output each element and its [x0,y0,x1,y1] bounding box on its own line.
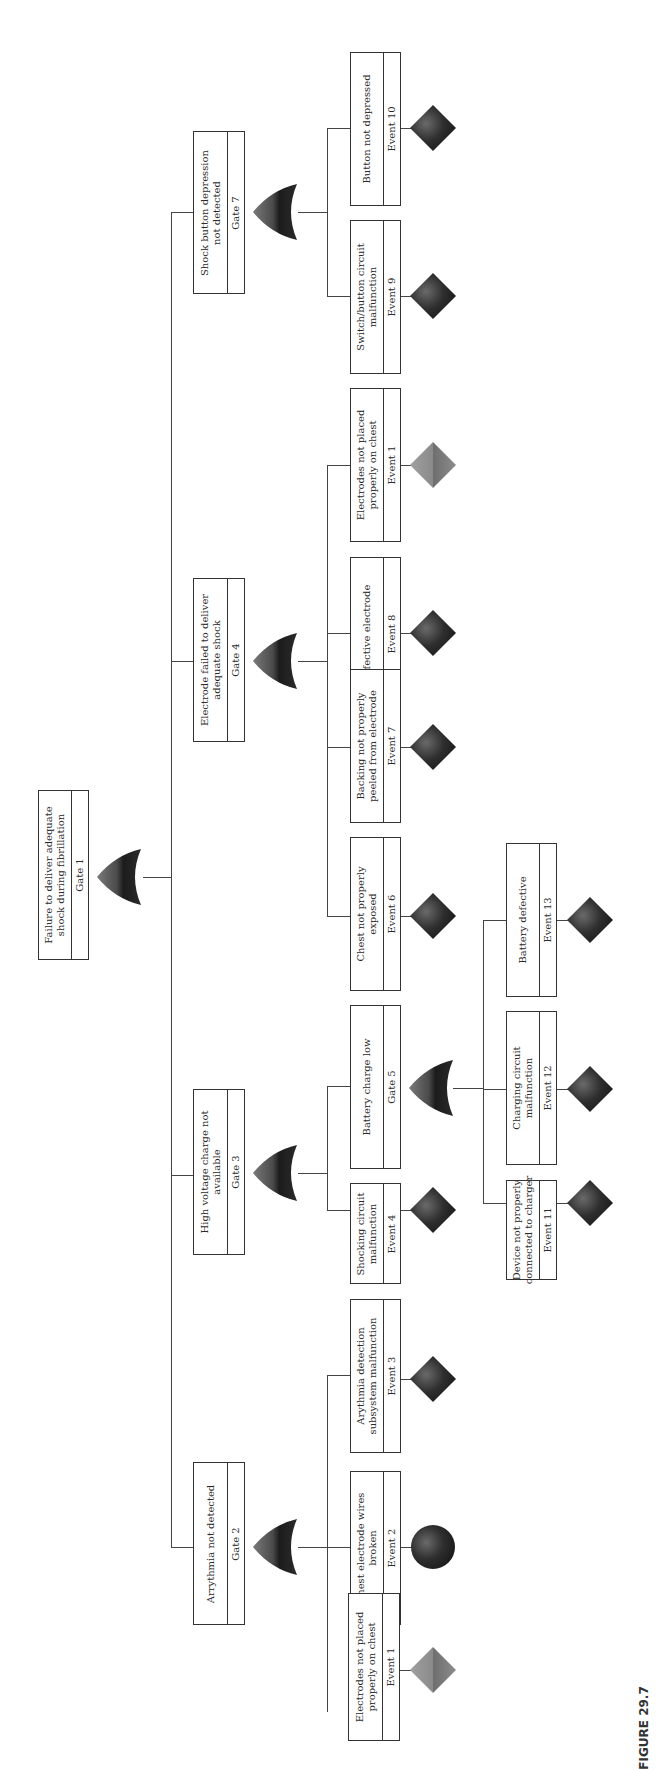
gate-7-line1: Shock button depression [199,149,211,275]
gate1-to-trunk [143,877,171,878]
gate-5-line1: Battery charge low [361,1039,373,1136]
trunk-to-gate4 [171,661,193,662]
gate3-bus [327,1086,328,1211]
gate-7-box: Shock button depressionnot detected Gate… [193,131,245,294]
event-3-box: Arythmia detectionsubsystem malfunction … [350,1299,401,1453]
or-gate-5-icon [407,1060,455,1116]
gate5-bus [483,920,484,1204]
event-13-id: Event 13 [542,897,554,942]
figure-caption-text: FIGURE 29.7 [637,1686,651,1769]
basic-event-12-diamond-icon [567,1066,613,1112]
to-event8 [327,633,350,634]
gate-1-box: Failure to deliver adequateshock during … [38,790,89,960]
or-gate-2-icon [251,1519,299,1575]
event-13-box: Battery defective Event 13 [506,843,557,997]
gate-4-line1: Electrode failed to deliver [199,594,211,726]
or-gate-4-icon [251,633,299,689]
or-gate-7-icon [251,184,299,240]
gate-3-line1: High voltage charge not [199,1110,211,1233]
event-9-line2: malfunction [367,243,379,350]
to-event9 [327,296,350,297]
gate3-out [298,1173,327,1174]
event-1a-line1: Electrodes not placed [354,1612,366,1723]
gate-4-id: Gate 4 [230,643,242,676]
gate4-out [298,661,327,662]
event-7-box: Backing not properlypeeled from electrod… [350,669,401,823]
event-2-line1: Chest electrode wires [355,1493,367,1604]
event-3-id: Event 3 [386,1357,398,1396]
event-1a-line2: properly on chest [366,1612,378,1723]
event-4-id: Event 4 [386,1214,398,1253]
basic-event-10-diamond-icon [410,105,456,151]
basic-event-2-circle-icon [410,1524,456,1570]
event-6-id: Event 6 [386,895,398,934]
gate4-bus [327,465,328,917]
gate7-out [298,212,327,213]
event-1b-line2: properly on chest [367,410,379,521]
basic-event-7-diamond-icon [410,724,456,770]
gate-7-id: Gate 7 [230,196,242,229]
event-13-line1: Battery defective [517,876,529,963]
event-1a-light-diamond-icon [410,1647,456,1693]
trunk-to-gate7 [171,212,193,213]
event-11-line1: Device not properly [511,1176,523,1285]
gate-4-line2: adequate shock [211,594,223,726]
to-event10 [327,128,350,129]
gate-1-line2: shock during fibrillation [55,806,67,943]
event-4-box: Shocking circuitmalfunction Event 4 [350,1183,401,1284]
event-12-box: Charging circuitmalfunction Event 12 [506,1011,557,1165]
to-event7 [327,747,350,748]
to-event11 [483,1203,506,1204]
event-6-box: Chest not properlyexposed Event 6 [350,837,401,991]
trunk-to-gate2 [171,1547,193,1548]
to-event2 [327,1547,350,1548]
event-1b-box: Electrodes not placedproperly on chest E… [350,388,401,542]
to-event12 [483,1089,506,1090]
basic-event-9-diamond-icon [410,273,456,319]
event-12-line2: malfunction [523,1046,535,1129]
event-7-line1: Backing not properly [355,690,367,802]
event-10-line1: Button not depressed [361,74,373,183]
gate-3-id: Gate 3 [230,1155,242,1188]
event-11-box: Device not properlyconnected to charger … [506,1180,557,1280]
gate7-bus [327,128,328,297]
gate-1-line1: Failure to deliver adequate [43,806,55,943]
to-gate5 [327,1086,350,1087]
gate-2-id: Gate 2 [230,1527,242,1560]
event-11-line2: connected to charger [523,1176,535,1285]
gate2-bus [327,1375,328,1712]
event-7-id: Event 7 [386,727,398,766]
event-12-line1: Charging circuit [511,1046,523,1129]
basic-event-6-diamond-icon [410,893,456,939]
basic-event-3-diamond-icon [410,1356,456,1402]
event-10-id: Event 10 [386,106,398,151]
to-event13 [483,920,506,921]
event-3-line1: Arythmia detection [355,1318,367,1435]
to-event3 [327,1375,350,1376]
basic-event-8-diamond-icon [410,610,456,656]
event-4-line2: malfunction [367,1192,379,1275]
gate-3-line2: available [211,1110,223,1233]
event-6-line1: Chest not properly [355,866,367,961]
event-2-id: Event 2 [386,1529,398,1568]
to-event4 [327,1210,350,1211]
figure-caption: FIGURE 29.7 [632,1690,656,1766]
to-event1b [327,465,350,466]
or-gate-3-icon [251,1145,299,1201]
event-9-line1: Switch/button circuit [355,243,367,350]
event-10-box: Button not depressed Event 10 [350,52,401,206]
event-9-id: Event 9 [386,278,398,317]
gate-3-box: High voltage charge notavailable Gate 3 [193,1089,245,1255]
event-12-id: Event 12 [542,1065,554,1110]
gate2-out [298,1547,327,1548]
gate-4-box: Electrode failed to deliveradequate shoc… [193,578,245,742]
event-1b-id: Event 1 [386,446,398,485]
basic-event-11-diamond-icon [567,1180,613,1226]
trunk-line [171,212,172,1548]
event-8-id: Event 8 [386,615,398,654]
event-4-line1: Shocking circuit [355,1192,367,1275]
event-9-box: Switch/button circuitmalfunction Event 9 [350,220,401,374]
gate-5-id: Gate 5 [386,1070,398,1103]
event-11-id: Event 11 [542,1207,554,1252]
gate5-out [453,1088,483,1089]
